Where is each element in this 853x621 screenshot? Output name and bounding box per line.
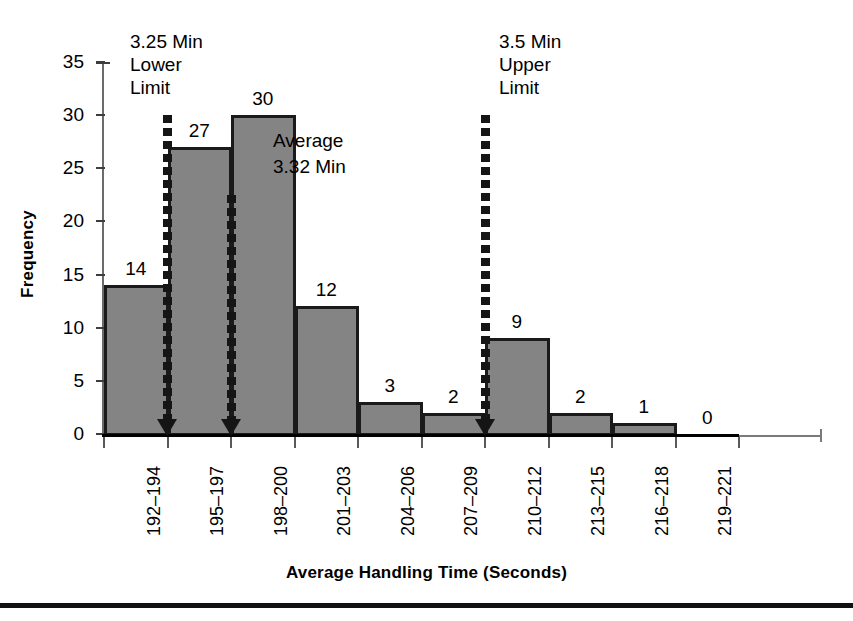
bar-value-label: 30: [231, 89, 295, 108]
x-axis-category-label: 198–200: [272, 466, 290, 536]
bar-value-label: 1: [612, 397, 676, 416]
x-axis-category-label: 204–206: [399, 466, 417, 536]
histogram-chart: Frequency 05101520253035 14273012329210 …: [0, 0, 853, 621]
x-axis-category-label: 201–203: [335, 466, 353, 536]
histogram-bar: [104, 285, 169, 436]
x-axis-tick: [421, 437, 423, 448]
bar-value-label: 9: [485, 312, 549, 331]
x-axis-tick: [167, 437, 169, 448]
bar-value-label: 27: [168, 121, 232, 140]
x-axis-category-label: 210–212: [526, 466, 544, 536]
x-axis-baseline: [102, 434, 739, 437]
x-axis-baseline-tail: [739, 435, 820, 437]
x-axis-tick: [675, 437, 677, 448]
x-axis-tick: [230, 437, 232, 448]
x-axis-tick: [294, 437, 296, 448]
histogram-bar: [295, 306, 360, 436]
bar-value-label: 12: [295, 280, 359, 299]
bottom-divider: [0, 603, 853, 608]
y-axis-tick: [96, 167, 105, 169]
y-axis-tick-label: 10: [44, 318, 84, 337]
histogram-bar: [485, 338, 550, 436]
y-axis-tick-label: 30: [44, 105, 84, 124]
bar-value-label: 14: [104, 259, 168, 278]
y-axis-tick-label: 35: [44, 52, 84, 71]
x-axis-category-label: 207–209: [462, 466, 480, 536]
histogram-bar: [168, 147, 233, 436]
x-axis-end-cap: [820, 429, 822, 442]
bar-value-label: 0: [676, 408, 740, 427]
x-axis-title: Average Handling Time (Seconds): [0, 563, 853, 583]
x-axis-category-label: 219–221: [716, 466, 734, 536]
lower-limit-annotation-label: 3.25 Min Lower Limit: [130, 30, 203, 99]
x-axis-tick: [357, 437, 359, 448]
y-axis-tick-label: 5: [44, 371, 84, 390]
x-axis-tick: [738, 437, 740, 448]
upper-limit-annotation-label: 3.5 Min Upper Limit: [499, 30, 561, 99]
x-axis-category-label: 195–197: [208, 466, 226, 536]
y-axis-tick: [96, 220, 105, 222]
x-axis-tick: [484, 437, 486, 448]
x-axis-category-label: 216–218: [653, 466, 671, 536]
bar-value-label: 3: [358, 376, 422, 395]
histogram-bar: [549, 413, 614, 436]
x-axis-category-label: 192–194: [145, 466, 163, 536]
x-axis-category-label: 213–215: [589, 466, 607, 536]
upper-limit-arrow-icon: [481, 115, 490, 434]
y-axis-tick: [96, 114, 105, 116]
bar-value-label: 2: [422, 387, 486, 406]
average-arrow-icon: [227, 195, 236, 434]
y-axis-tick-label: 25: [44, 158, 84, 177]
lower-limit-arrow-icon: [163, 115, 172, 434]
x-axis-tick: [548, 437, 550, 448]
histogram-bar: [358, 402, 423, 436]
y-axis-tick-label: 20: [44, 211, 84, 230]
y-axis-tick-label: 0: [44, 424, 84, 443]
y-axis-tick-label: 15: [44, 265, 84, 284]
y-axis-tick: [96, 61, 105, 63]
y-axis-title: Frequency: [18, 164, 38, 344]
average-annotation-label: Average 3.32 Min: [273, 128, 346, 180]
x-axis-tick: [103, 437, 105, 448]
bar-value-label: 2: [549, 387, 613, 406]
x-axis-tick: [611, 437, 613, 448]
